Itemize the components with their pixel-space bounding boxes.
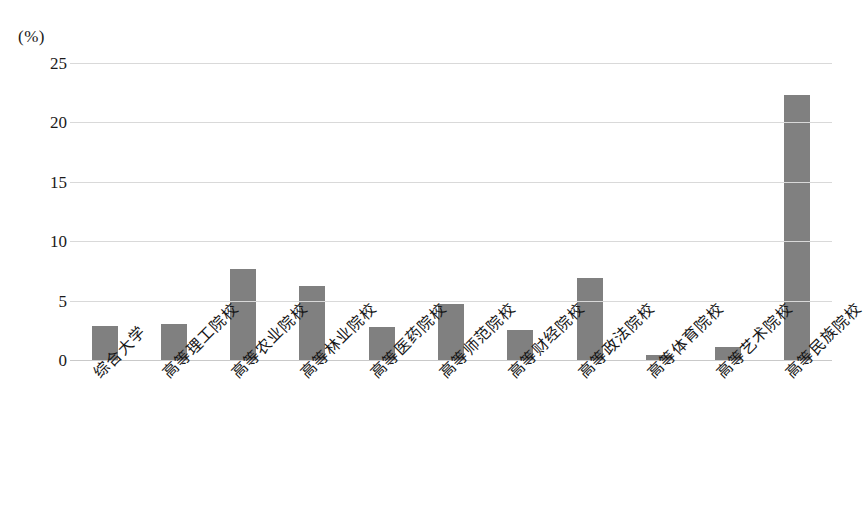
y-tick-label-20: 20 xyxy=(21,114,67,131)
gridline-25 xyxy=(70,63,832,64)
gridline-15 xyxy=(70,182,832,183)
y-tick-label-25: 25 xyxy=(21,55,67,72)
gridline-20 xyxy=(70,122,832,123)
y-tick-label-10: 10 xyxy=(21,233,67,250)
y-axis-unit-label: (%) xyxy=(18,28,45,45)
y-tick-label-15: 15 xyxy=(21,173,67,190)
gridline-5 xyxy=(70,301,832,302)
y-tick-label-5: 5 xyxy=(21,292,67,309)
x-axis-labels: 综合大学高等理工院校高等农业院校高等林业院校高等医药院校高等师范院校高等财经院校… xyxy=(70,366,832,510)
y-tick-label-0: 0 xyxy=(21,352,67,369)
bar xyxy=(784,95,810,360)
gridline-10 xyxy=(70,241,832,242)
